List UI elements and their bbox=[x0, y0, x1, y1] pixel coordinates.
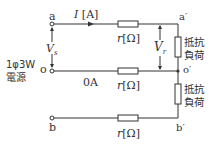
neutral-current-label: 0A bbox=[83, 77, 98, 88]
resistor-o-label: r[Ω] bbox=[117, 80, 140, 91]
resistor-b-label: r[Ω] bbox=[117, 128, 140, 139]
terminal-b-label: b bbox=[49, 122, 56, 133]
source-voltage-label: Vs bbox=[46, 43, 58, 57]
terminal-b-prime-label: b′ bbox=[176, 123, 185, 133]
terminal-a-label: a bbox=[49, 11, 56, 22]
terminal-a-prime-label: a′ bbox=[179, 12, 187, 22]
current-var: I bbox=[74, 8, 78, 21]
terminal-o-prime-label: o′ bbox=[183, 65, 191, 75]
load-voltage-label: Vr bbox=[154, 41, 166, 56]
load-label-upper: 抵抗 負荷 bbox=[184, 36, 204, 62]
terminal-o-label: o bbox=[40, 64, 47, 75]
resistor-a-label: r[Ω] bbox=[117, 33, 140, 44]
source-label: 1φ3W 電源 bbox=[6, 58, 35, 84]
load-label-lower: 抵抗 負荷 bbox=[184, 83, 204, 109]
current-unit: [A] bbox=[82, 8, 99, 21]
current-label: I [A] bbox=[74, 9, 98, 20]
